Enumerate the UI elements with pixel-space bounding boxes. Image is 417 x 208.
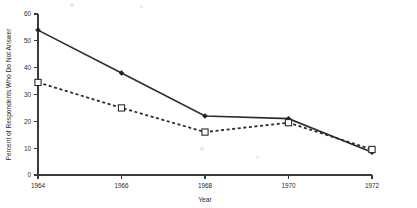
x-tick-label: 1966 (114, 182, 129, 189)
y-tick-label: 30 (24, 91, 32, 98)
data-point-open-square (285, 120, 291, 126)
x-tick-label: 1970 (281, 182, 296, 189)
data-point-open-square (35, 79, 41, 85)
x-tick-label: 1968 (198, 182, 213, 189)
y-tick-label: 60 (24, 10, 32, 17)
y-tick-label: 20 (24, 118, 32, 125)
y-tick-label: 50 (24, 37, 32, 44)
data-point-open-square (369, 146, 375, 152)
data-point-open-square (118, 105, 124, 111)
x-tick-label: 1964 (31, 182, 46, 189)
line-chart: 0 10 20 30 40 50 60 Percent of Responden… (0, 0, 417, 208)
y-axis-title: Percent of Respondents Who Do Not Answer (5, 28, 13, 161)
data-point-open-square (202, 129, 208, 135)
y-tick-label: 40 (24, 64, 32, 71)
y-tick-label: 10 (24, 145, 32, 152)
chart-figure: 0 10 20 30 40 50 60 Percent of Responden… (0, 0, 417, 208)
y-tick-label: 0 (27, 171, 31, 178)
chart-background (0, 0, 417, 208)
x-tick-label: 1972 (365, 182, 380, 189)
x-axis-title: Year (198, 196, 212, 203)
